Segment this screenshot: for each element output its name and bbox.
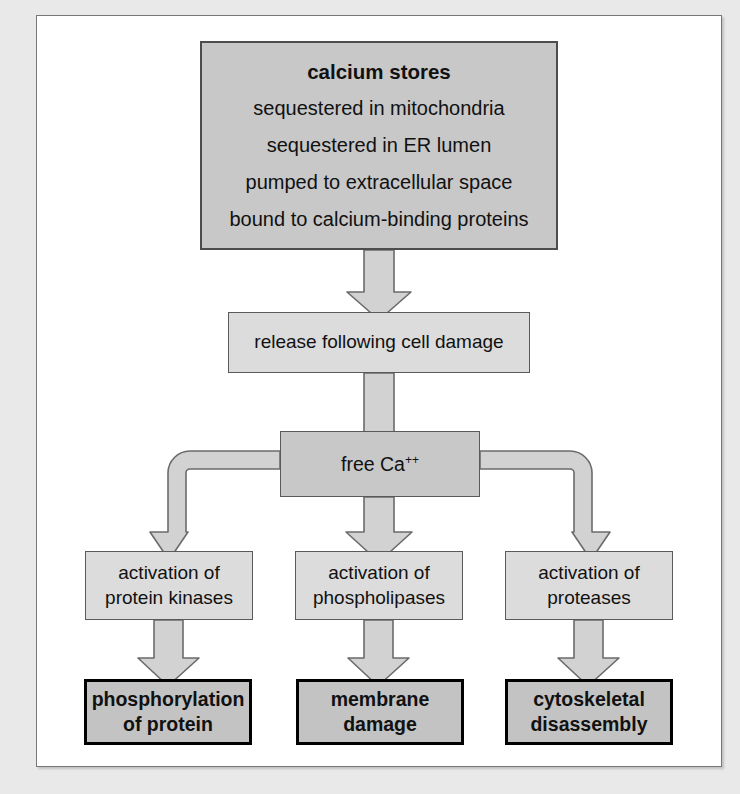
- arrow-activation-to-outcome-right: [558, 620, 619, 686]
- outcome-phosphorylation-line-1: phosphorylation: [92, 687, 245, 712]
- node-activation-proteases[interactable]: activation of proteases: [505, 551, 673, 620]
- node-free-calcium[interactable]: free Ca++: [280, 431, 480, 497]
- free-calcium-charge: ++: [405, 452, 419, 466]
- node-release-following-cell-damage[interactable]: release following cell damage: [228, 312, 530, 373]
- outcome-membrane-damage-line-2: damage: [343, 712, 417, 737]
- outcome-cytoskeletal-line-2: disassembly: [530, 712, 647, 737]
- calcium-stores-line-3: pumped to extracellular space: [246, 170, 513, 196]
- outcome-cytoskeletal-line-1: cytoskeletal: [533, 687, 645, 712]
- activation-proteases-line-2: proteases: [547, 586, 630, 610]
- diagram-page: calcium stores sequestered in mitochondr…: [0, 0, 740, 794]
- activation-protein-kinases-line-1: activation of: [118, 561, 219, 585]
- arrow-free-calcium-to-activation-left: [150, 451, 280, 560]
- arrow-activation-to-outcome-left: [138, 620, 199, 686]
- free-calcium-label-text: free Ca: [341, 453, 405, 475]
- node-activation-protein-kinases[interactable]: activation of protein kinases: [85, 551, 253, 620]
- node-membrane-damage[interactable]: membrane damage: [296, 679, 464, 745]
- outcome-membrane-damage-line-1: membrane: [331, 687, 430, 712]
- node-cytoskeletal-disassembly[interactable]: cytoskeletal disassembly: [505, 679, 673, 745]
- calcium-stores-line-4: bound to calcium-binding proteins: [229, 207, 528, 233]
- arrow-activation-to-outcome-middle: [348, 620, 409, 686]
- node-activation-phospholipases[interactable]: activation of phospholipases: [295, 551, 463, 620]
- calcium-stores-line-2: sequestered in ER lumen: [267, 133, 492, 159]
- activation-phospholipases-line-1: activation of: [328, 561, 429, 585]
- calcium-stores-title: calcium stores: [307, 59, 451, 85]
- arrow-store-to-release: [347, 250, 411, 320]
- calcium-stores-line-1: sequestered in mitochondria: [253, 96, 504, 122]
- activation-phospholipases-line-2: phospholipases: [313, 586, 445, 610]
- activation-proteases-line-1: activation of: [538, 561, 639, 585]
- free-calcium-label: free Ca++: [341, 452, 419, 477]
- node-phosphorylation-of-protein[interactable]: phosphorylation of protein: [84, 679, 252, 745]
- outcome-phosphorylation-line-2: of protein: [123, 712, 213, 737]
- release-label: release following cell damage: [254, 330, 503, 354]
- arrow-free-calcium-to-activation-right: [480, 451, 610, 560]
- activation-protein-kinases-line-2: protein kinases: [105, 586, 233, 610]
- node-calcium-stores[interactable]: calcium stores sequestered in mitochondr…: [200, 41, 558, 250]
